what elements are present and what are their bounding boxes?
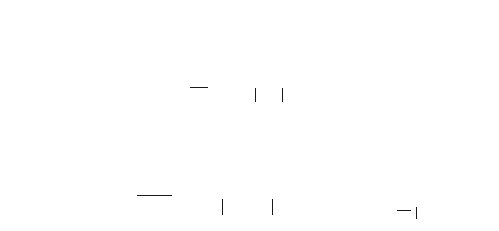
recording-figure xyxy=(0,0,499,231)
arrow-down-icon xyxy=(282,88,283,102)
arrow-down-icon xyxy=(272,199,273,215)
arrow-up-icon xyxy=(222,199,223,215)
5ht-application-bar xyxy=(190,87,208,88)
voltage-scale-bar xyxy=(416,207,417,219)
arrow-up-icon xyxy=(255,88,256,102)
sp-application-bar xyxy=(137,195,172,196)
time-scale-bar xyxy=(397,210,411,211)
